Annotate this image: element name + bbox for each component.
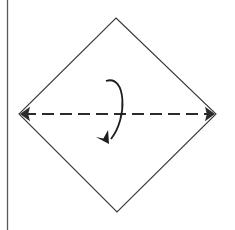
origami-fold-figure bbox=[0, 0, 235, 230]
figure-canvas bbox=[0, 0, 235, 230]
